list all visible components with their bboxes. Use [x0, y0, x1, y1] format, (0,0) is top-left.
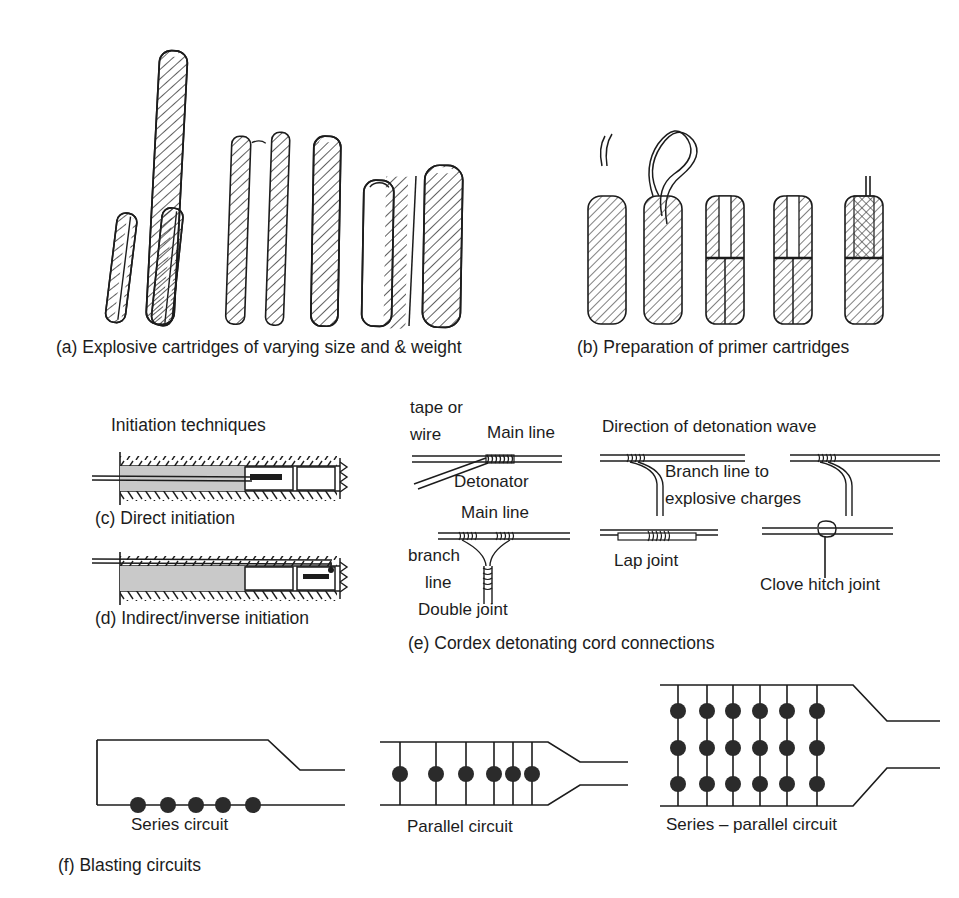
label-double-joint: Double joint [418, 600, 508, 620]
detonator-node [779, 740, 795, 756]
detonator-node [160, 797, 176, 813]
cartridge [265, 132, 290, 326]
detonator-node [779, 776, 795, 792]
detonator-node [809, 776, 825, 792]
panel-b-primers [588, 131, 883, 324]
detonator-node [699, 776, 715, 792]
detonator-node [392, 766, 408, 782]
cartridge [311, 136, 341, 326]
primer-cartridge [588, 134, 626, 324]
label-explosive-charges: explosive charges [665, 489, 801, 509]
panel-c-direct-initiation [92, 452, 347, 505]
cartridge-edge-line [409, 176, 416, 326]
label-series-circuit: Series circuit [131, 815, 228, 835]
caption-panel-d: (d) Indirect/inverse initiation [95, 608, 309, 629]
detonator-node [670, 776, 686, 792]
label-detonator: Detonator [454, 472, 529, 492]
label-branch-line-to: Branch line to [665, 462, 769, 482]
caption-panel-a: (a) Explosive cartridges of varying size… [56, 337, 462, 358]
cartridge [361, 176, 408, 329]
detonator-node [725, 740, 741, 756]
primer-cartridge [644, 131, 697, 324]
detonator-node [458, 766, 474, 782]
detonator-node [188, 797, 204, 813]
label-tape-or: tape or [410, 398, 463, 418]
cartridge [422, 165, 463, 328]
cartridge [225, 136, 266, 325]
detonator-node [752, 740, 768, 756]
label-branch-line: line [425, 573, 451, 593]
label-clove-hitch-joint: Clove hitch joint [760, 575, 880, 595]
circuit-series [97, 740, 345, 813]
detonator-node [670, 703, 686, 719]
label-wire: wire [410, 425, 441, 445]
panel-d-inverse-initiation [92, 552, 347, 605]
caption-panel-c: (c) Direct initiation [95, 508, 235, 529]
primer-cartridge [706, 196, 744, 324]
detonator-node [752, 776, 768, 792]
detonator-node [725, 703, 741, 719]
detonator-node [809, 740, 825, 756]
cartridge [105, 212, 138, 324]
detonator-node [699, 740, 715, 756]
detonator-node [524, 766, 540, 782]
caption-panel-e: (e) Cordex detonating cord connections [408, 633, 714, 654]
caption-panel-b: (b) Preparation of primer cartridges [577, 337, 849, 358]
detonator-node [809, 703, 825, 719]
cartridge [146, 50, 188, 325]
label-main-line-mid: Main line [461, 503, 529, 523]
detonator-node [486, 766, 502, 782]
detonator-node [130, 797, 146, 813]
caption-panel-f: (f) Blasting circuits [58, 855, 201, 876]
detonator-node [215, 797, 231, 813]
detonator-node [752, 703, 768, 719]
detonator-node [699, 703, 715, 719]
detonator-node [670, 740, 686, 756]
detonator-node [428, 766, 444, 782]
label-series-parallel-circuit: Series – parallel circuit [666, 815, 837, 835]
circuit-series-parallel [660, 685, 940, 806]
detonator-node [725, 776, 741, 792]
detonator-node [779, 703, 795, 719]
primer-cartridge [774, 196, 812, 324]
heading-initiation-techniques: Initiation techniques [111, 415, 266, 436]
primer-cartridge [845, 176, 883, 324]
label-branch: branch [408, 546, 460, 566]
label-main-line-top: Main line [487, 423, 555, 443]
detonator-node [505, 766, 521, 782]
cordex-double-joint [438, 532, 570, 604]
label-lap-joint: Lap joint [614, 551, 678, 571]
panel-a-cartridges [105, 50, 463, 329]
cordex-clove-hitch-joint [762, 521, 893, 578]
cordex-lap-joint [600, 530, 718, 541]
detonator-node [245, 797, 261, 813]
circuit-parallel [380, 742, 628, 805]
label-direction-of-detonation-wave: Direction of detonation wave [602, 417, 817, 437]
label-parallel-circuit: Parallel circuit [407, 817, 513, 837]
figure-canvas [0, 0, 959, 898]
